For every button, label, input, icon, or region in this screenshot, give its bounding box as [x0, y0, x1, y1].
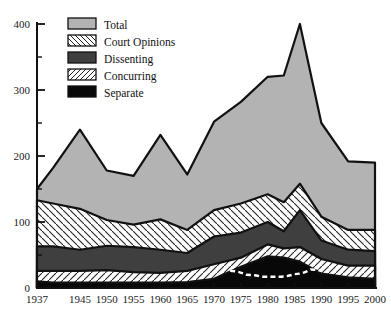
- x-tick-label-1990: 1990: [310, 293, 333, 305]
- x-tick-label-1980: 1980: [257, 293, 280, 305]
- legend-label-dissenting: Dissenting: [104, 53, 153, 66]
- area-chart: 0100200300400 19371945195019551960196519…: [0, 0, 391, 316]
- legend-label-concurring: Concurring: [104, 70, 157, 83]
- legend-swatch-separate: [68, 86, 96, 97]
- y-tick-label-400: 400: [14, 18, 31, 30]
- legend-label-separate: Separate: [104, 87, 144, 100]
- x-tick-label-1985: 1985: [284, 293, 307, 305]
- legend-swatch-concurring: [68, 69, 96, 80]
- x-tick-label-1937: 1937: [26, 293, 49, 305]
- legend-swatch-court-opinions: [68, 35, 96, 46]
- x-tick-label-1965: 1965: [176, 293, 199, 305]
- x-tick-label-1950: 1950: [96, 293, 119, 305]
- chart-container: 0100200300400 19371945195019551960196519…: [0, 0, 391, 316]
- x-tick-label-1955: 1955: [123, 293, 146, 305]
- legend-swatch-total: [68, 18, 96, 29]
- y-tick-label-300: 300: [14, 84, 31, 96]
- legend-label-court-opinions: Court Opinions: [104, 36, 176, 49]
- x-tick-label-1945: 1945: [69, 293, 92, 305]
- x-tick-label-2000: 2000: [364, 293, 387, 305]
- y-tick-label-200: 200: [14, 150, 31, 162]
- x-tick-label-1975: 1975: [230, 293, 253, 305]
- legend-swatch-dissenting: [68, 52, 96, 63]
- y-tick-label-100: 100: [14, 216, 31, 228]
- legend-label-total: Total: [104, 19, 127, 31]
- x-tick-label-1995: 1995: [337, 293, 360, 305]
- x-tick-label-1960: 1960: [149, 293, 172, 305]
- x-tick-label-1970: 1970: [203, 293, 226, 305]
